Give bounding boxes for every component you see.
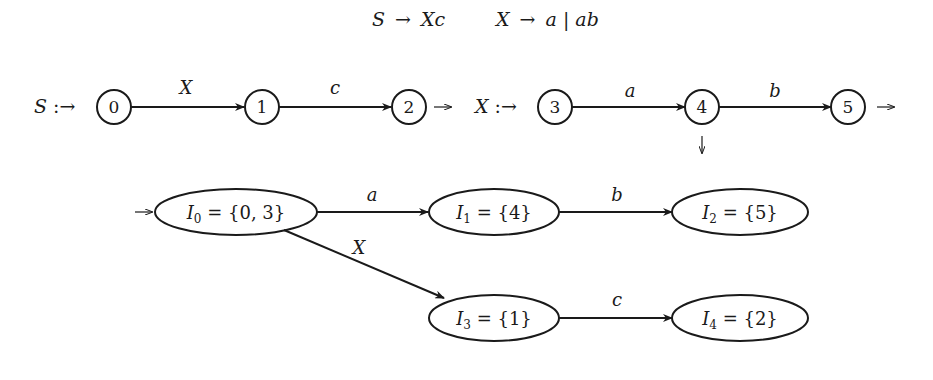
automaton-diagram: S → Xc X → a | ab S :→ 0 X 1 c 2 X :→ 3 … — [0, 0, 933, 380]
state-5-label: 5 — [843, 97, 854, 117]
state-0-label: 0 — [109, 97, 120, 117]
rule-s: S → Xc — [372, 8, 446, 30]
edge-I3-I4-label: c — [612, 289, 622, 310]
state-3-label: 3 — [550, 97, 561, 117]
nfa-x-label: X :→ — [473, 95, 517, 117]
nfa-s-label: S :→ — [34, 95, 75, 117]
state-4-label: 4 — [697, 97, 708, 117]
edge-0-1-label: X — [178, 77, 194, 98]
state-I0-label: I0 = {0, 3} — [186, 202, 286, 226]
state-2-label: 2 — [404, 97, 415, 117]
edge-I1-I2-label: b — [611, 184, 623, 205]
edge-I0-I1-label: a — [367, 184, 378, 205]
dfa: I0 = {0, 3} a I1 = {4} b I2 = {5} X I3 =… — [135, 184, 808, 341]
nfa-x: X :→ 3 a 4 b 5 — [473, 80, 894, 153]
grammar-rules: S → Xc X → a | ab — [372, 8, 599, 31]
edge-1-2-label: c — [330, 77, 340, 98]
edge-4-5-label: b — [769, 80, 781, 101]
edge-I0-I3-label: X — [351, 237, 367, 258]
nfa-s: S :→ 0 X 1 c 2 — [34, 77, 451, 124]
state-1-label: 1 — [257, 97, 268, 117]
edge-3-4-label: a — [625, 80, 636, 101]
rule-x: X → a | ab — [494, 8, 599, 31]
